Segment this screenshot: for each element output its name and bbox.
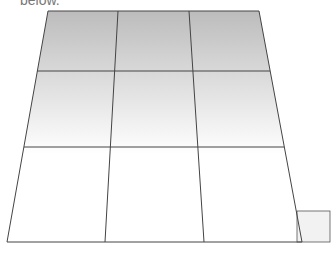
small-square <box>297 211 330 242</box>
grid-surface <box>7 11 302 242</box>
perspective-grid-diagram <box>0 0 333 254</box>
